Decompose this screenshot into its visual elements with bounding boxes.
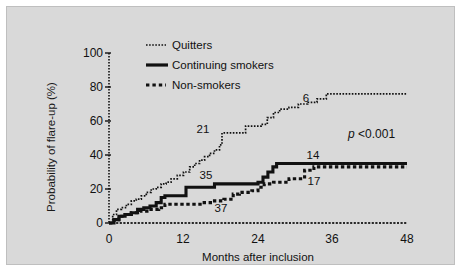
y-tick-80: 80 (90, 80, 104, 94)
annotation-nonsmokers-end: 17 (308, 175, 321, 187)
series-continuing-smokers-line (109, 164, 407, 224)
annotation-quitters-mid: 21 (197, 123, 210, 135)
y-tick-40: 40 (90, 148, 104, 162)
series-quitters-line (109, 94, 407, 223)
y-axis-title: Probability of flare-up (%) (45, 82, 57, 212)
y-tick-60: 60 (90, 114, 104, 128)
figure-panel: Probability of flare-up (%) 0 20 40 60 8… (6, 6, 455, 265)
legend-label-quitters: Quitters (172, 39, 213, 51)
series-group (109, 94, 407, 223)
annotation-smokers-end: 14 (307, 149, 320, 161)
x-tick-24: 24 (251, 232, 265, 246)
p-value-number: <0.001 (355, 127, 396, 141)
x-tick-48: 48 (400, 232, 414, 246)
series-non-smokers-line (109, 167, 407, 223)
annotation-nonsmokers-mid: 37 (215, 202, 228, 214)
x-tick-0: 0 (106, 232, 113, 246)
legend-label-non-smokers: Non-smokers (172, 79, 241, 91)
x-axis-title: Months after inclusion (202, 251, 314, 263)
kaplan-meier-chart: Probability of flare-up (%) 0 20 40 60 8… (7, 7, 456, 266)
annotation-quitters-end: 6 (303, 92, 309, 104)
y-tick-20: 20 (90, 182, 104, 196)
p-value-annotation: p <0.001 (347, 127, 395, 141)
x-tick-36: 36 (325, 232, 339, 246)
y-tick-0: 0 (96, 216, 103, 230)
y-tick-100: 100 (83, 46, 103, 60)
legend: Quitters Continuing smokers Non-smokers (146, 39, 274, 91)
annotation-smokers-mid: 35 (200, 169, 213, 181)
legend-label-continuing-smokers: Continuing smokers (172, 59, 274, 71)
y-tick-marks (105, 53, 111, 223)
x-tick-12: 12 (176, 232, 190, 246)
